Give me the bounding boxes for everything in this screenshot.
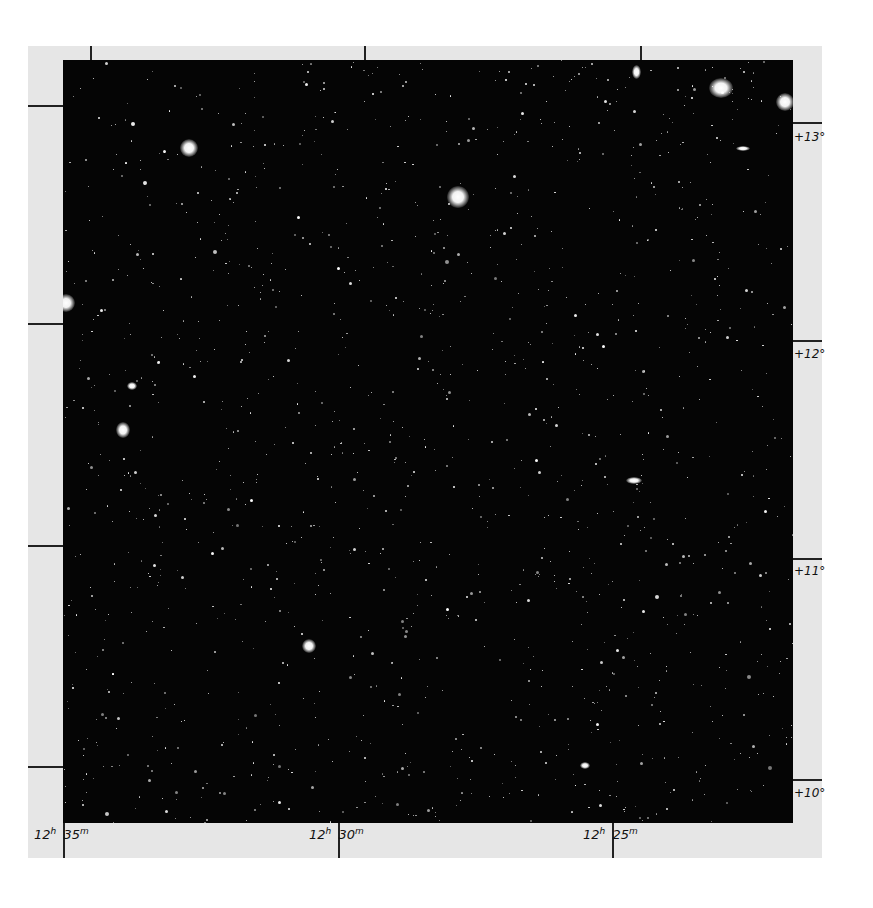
star (384, 700, 385, 701)
star (660, 711, 661, 712)
galaxy-edge-on-right (626, 477, 642, 484)
star (191, 296, 192, 297)
star (232, 123, 235, 126)
star (317, 478, 319, 480)
star (502, 783, 503, 784)
star (642, 610, 645, 613)
star (510, 227, 512, 229)
star (91, 387, 92, 388)
star (315, 771, 316, 772)
star (253, 648, 254, 649)
star (169, 110, 170, 111)
star (237, 430, 239, 432)
star (571, 79, 572, 80)
star (147, 196, 148, 197)
star (609, 795, 610, 796)
star (157, 361, 160, 364)
star (370, 686, 372, 688)
star (278, 765, 281, 768)
star (273, 376, 274, 377)
star (314, 658, 315, 659)
star (93, 319, 94, 320)
star (373, 495, 375, 497)
star (102, 216, 103, 217)
star (387, 262, 388, 263)
star (696, 771, 697, 772)
star (302, 237, 304, 239)
star (430, 542, 431, 543)
star (148, 779, 151, 782)
star (330, 246, 332, 248)
star (337, 267, 340, 270)
star (587, 527, 588, 528)
star (530, 820, 532, 822)
star (552, 146, 553, 147)
star (492, 349, 493, 350)
star (288, 769, 289, 770)
star (443, 389, 444, 390)
star (288, 612, 289, 613)
star (732, 93, 733, 94)
star (757, 753, 758, 754)
star (350, 553, 351, 554)
star (633, 147, 634, 148)
star (704, 554, 706, 556)
star (786, 743, 787, 744)
star (643, 459, 644, 460)
star (193, 375, 196, 378)
star (717, 320, 718, 321)
star (271, 263, 272, 264)
star (181, 203, 183, 205)
star (397, 771, 398, 772)
star (285, 269, 286, 270)
star (147, 79, 148, 80)
star (435, 470, 436, 471)
star (100, 454, 101, 455)
star (494, 754, 495, 755)
star (171, 650, 172, 651)
star (213, 250, 217, 254)
star (764, 510, 767, 513)
star (650, 653, 651, 654)
star (231, 145, 232, 146)
star (176, 203, 177, 204)
star (548, 714, 549, 715)
star (108, 614, 109, 615)
star (729, 327, 731, 329)
star (389, 310, 390, 311)
star (418, 357, 421, 360)
star (233, 431, 234, 432)
star (236, 524, 239, 527)
star (206, 499, 207, 500)
star (356, 736, 357, 737)
star (505, 79, 507, 81)
star (337, 169, 338, 170)
star (700, 778, 701, 779)
star (390, 126, 391, 127)
star (679, 562, 681, 564)
star (168, 608, 169, 609)
star (728, 536, 730, 538)
star (591, 732, 592, 733)
star (131, 140, 132, 141)
star (385, 188, 387, 190)
star (147, 765, 149, 767)
star (154, 683, 155, 684)
star (654, 697, 655, 698)
star (722, 568, 723, 569)
star (225, 233, 226, 234)
star (219, 461, 220, 462)
star (452, 751, 453, 752)
star (433, 304, 434, 305)
star (527, 141, 528, 142)
star (655, 229, 657, 231)
star (268, 379, 269, 380)
star (489, 479, 490, 480)
star (195, 257, 196, 258)
star (342, 811, 344, 813)
star (254, 714, 257, 717)
star (537, 228, 538, 229)
star (340, 319, 341, 320)
star (553, 384, 554, 385)
star (331, 454, 332, 455)
